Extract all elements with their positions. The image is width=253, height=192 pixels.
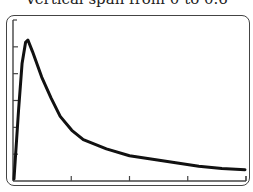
graph-curve — [14, 40, 245, 179]
graph-plot — [0, 0, 253, 192]
